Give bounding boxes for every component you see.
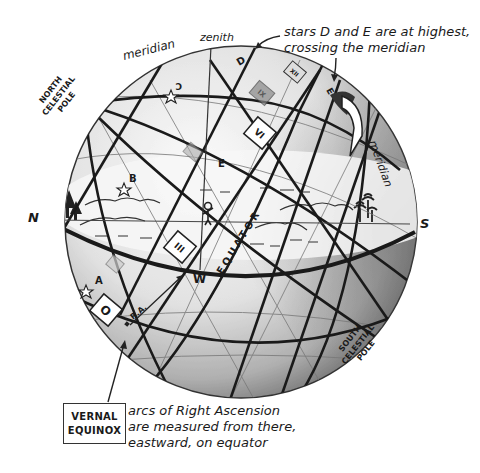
- vernal-equinox-line1: VERNAL: [71, 410, 118, 424]
- svg-text:E: E: [218, 158, 225, 169]
- annotation-top-line2: crossing the meridian: [284, 40, 470, 56]
- annotation-bottom-line3: eastward, on equator: [128, 435, 296, 451]
- svg-text:B: B: [129, 173, 137, 184]
- west-label: W: [193, 272, 206, 286]
- zenith-label: zenith: [199, 31, 234, 44]
- south-label: S: [420, 216, 429, 231]
- svg-text:C: C: [175, 81, 182, 91]
- vernal-equinox-line2: EQUINOX: [68, 424, 122, 438]
- annotation-bottom-line2: are measured from there,: [128, 419, 296, 435]
- annotation-bottom: arcs of Right Ascension are measured fro…: [128, 403, 296, 451]
- meridian-label-top: meridian: [121, 36, 176, 62]
- north-label: N: [28, 210, 39, 225]
- vernal-equinox-box: VERNAL EQUINOX: [63, 403, 126, 444]
- annotation-top: stars D and E are at highest, crossing t…: [284, 24, 470, 56]
- annotation-bottom-line1: arcs of Right Ascension: [128, 403, 296, 419]
- svg-text:A: A: [95, 275, 103, 286]
- north-celestial-pole-label: NORTH CELESTIAL POLE: [33, 68, 85, 123]
- annotation-top-line1: stars D and E are at highest,: [284, 24, 470, 40]
